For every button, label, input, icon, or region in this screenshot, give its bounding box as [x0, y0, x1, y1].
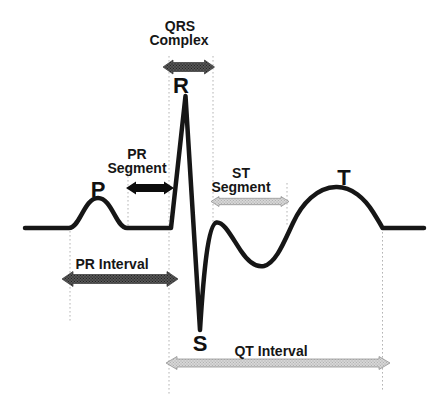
st-segment-arrow — [211, 197, 289, 207]
ecg-diagram-canvas: QRS Complex PR Segment ST Segment PR Int… — [0, 0, 443, 403]
r-wave-label: R — [173, 73, 189, 98]
st-segment-label-line2: Segment — [211, 179, 270, 195]
p-wave-label: P — [91, 177, 106, 202]
s-wave-label: S — [193, 331, 208, 356]
t-wave-label: T — [337, 165, 351, 190]
ecg-diagram: QRS Complex PR Segment ST Segment PR Int… — [0, 0, 443, 403]
pr-interval-label: PR Interval — [75, 256, 148, 272]
pr-segment-label-line2: Segment — [107, 160, 166, 176]
qrs-complex-label-line2: Complex — [149, 32, 208, 48]
qt-interval-label: QT Interval — [234, 343, 307, 359]
